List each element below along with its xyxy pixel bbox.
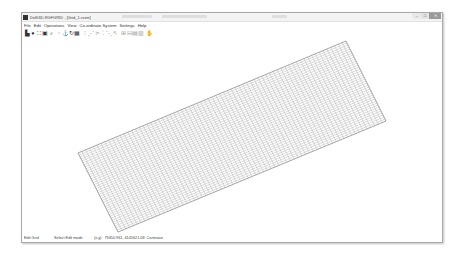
title-ghost [272, 15, 287, 18]
grid-icon[interactable]: ▦ [74, 30, 80, 37]
status-coord-system: Cartesian [147, 236, 163, 240]
pan-hand-icon[interactable]: ✋ [146, 30, 152, 37]
maximize-button[interactable]: □ [421, 13, 429, 19]
app-icon [23, 15, 28, 20]
title-ghost [122, 15, 152, 18]
curvilinear-grid[interactable] [22, 39, 442, 234]
menu-view[interactable]: View [67, 23, 76, 28]
menu-coordinate-system[interactable]: Co-ordinate System [79, 23, 116, 28]
minimize-button[interactable]: – [412, 13, 421, 19]
menu-settings[interactable]: Settings [119, 23, 134, 28]
menu-help[interactable]: Help [138, 23, 147, 28]
menu-bar: File Edit Operations View Co-ordinate Sy… [22, 22, 442, 29]
arrow-icon[interactable]: ↖ [112, 30, 118, 37]
close-button[interactable]: ✕ [429, 13, 441, 19]
toolbar: ▙●⛶▣⌕▫⚓↻▦⁝⋰⋗⁚⋱↖⊞⊟▤▥✋ [22, 29, 442, 38]
menu-edit[interactable]: Edit [34, 23, 41, 28]
status-hint: Select Edit mode [54, 236, 94, 240]
menu-operations[interactable]: Operations [44, 23, 64, 28]
window-title: Delft3D-RGFGRID - [Grid_1.rvsm] [30, 15, 91, 20]
app-window: Delft3D-RGFGRID - [Grid_1.rvsm] – □ ✕ Fi… [21, 12, 443, 243]
title-ghost [162, 15, 207, 18]
title-bar[interactable]: Delft3D-RGFGRID - [Grid_1.rvsm] – □ ✕ [22, 13, 442, 22]
status-coords: 79450.961, 4105621.08 [104, 236, 144, 240]
menu-file[interactable]: File [24, 23, 31, 28]
status-mode: Edit Grid [24, 236, 54, 240]
status-coords-label: (x,y): [94, 236, 102, 240]
grid-table-icon[interactable]: ▥ [138, 30, 144, 37]
grid-canvas[interactable] [22, 39, 442, 234]
status-bar: Edit Grid Select Edit mode (x,y): 79450.… [22, 234, 442, 242]
zoom-in-icon[interactable]: ⌕ [48, 30, 54, 37]
window-controls: – □ ✕ [412, 13, 441, 19]
